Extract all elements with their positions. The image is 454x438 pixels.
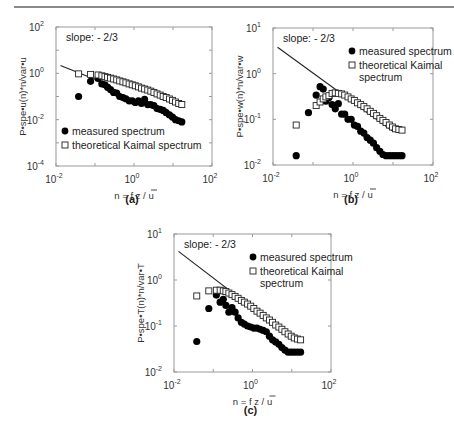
legend-marker-square — [250, 268, 256, 274]
y-tick-label: 101 — [246, 21, 261, 34]
data-point — [335, 100, 342, 107]
legend-label: theoretical Kaimal — [260, 265, 343, 277]
data-point — [313, 91, 320, 98]
y-tick-label: 10-1 — [145, 319, 162, 332]
data-point — [305, 109, 312, 116]
y-tick-label: 100 — [147, 273, 162, 286]
legend-label: theoretical Kaimal spectrum — [72, 139, 202, 151]
chart-b: 10-210010210-210-1100101n = f z / uP•spe… — [234, 21, 452, 205]
figure-caption: (c) — [244, 404, 258, 416]
legend: measured spectrumtheoretical Kaimalspect… — [250, 251, 353, 289]
legend-marker-circle — [349, 48, 356, 55]
figure-caption: (b) — [344, 193, 358, 205]
y-axis-label: P•spe•u(n)*n/var•u — [17, 57, 28, 136]
data-point — [293, 122, 299, 128]
y-tick-label: 102 — [29, 20, 44, 33]
data-point — [398, 152, 405, 159]
data-point — [87, 78, 94, 85]
y-tick-label: 10-2 — [145, 365, 162, 378]
data-point — [320, 85, 327, 92]
y-tick-label: 10-2 — [244, 158, 261, 171]
data-point — [298, 337, 304, 343]
legend-label: spectrum — [359, 71, 402, 83]
slope-annotation: slope: - 2/3 — [66, 31, 118, 43]
legend-label: measured spectrum — [72, 125, 165, 137]
legend-label: spectrum — [260, 277, 303, 289]
figure: 10-210010210-410-2100102n = f z / uP•spe… — [0, 0, 454, 438]
x-tick-label: 102 — [202, 172, 217, 185]
x-tick-label: 102 — [423, 171, 438, 184]
legend-marker-square — [62, 142, 68, 148]
legend-label: measured spectrum — [359, 45, 452, 57]
x-tick-label: 102 — [321, 378, 336, 391]
y-tick-label: 10-2 — [27, 113, 44, 126]
legend-marker-circle — [250, 254, 257, 261]
y-tick-label: 10-4 — [27, 159, 44, 172]
legend-label: measured spectrum — [260, 251, 353, 263]
data-point — [193, 338, 200, 345]
x-tick-label: 100 — [243, 378, 258, 391]
y-tick-label: 100 — [29, 66, 44, 79]
slope-annotation: slope: - 2/3 — [283, 32, 335, 44]
y-tick-label: 100 — [246, 67, 261, 80]
legend: measured spectrumtheoretical Kaimalspect… — [349, 45, 452, 83]
x-tick-label: 100 — [124, 172, 139, 185]
x-tick-label: 10-2 — [262, 171, 279, 184]
legend-marker-square — [349, 62, 355, 68]
y-tick-label: 10-1 — [244, 112, 261, 125]
data-point — [399, 127, 405, 133]
x-tick-label: 100 — [343, 171, 358, 184]
legend: measured spectrumtheoretical Kaimal spec… — [62, 125, 202, 151]
y-axis-label: P•spe•T(n)*n/var•T — [135, 263, 146, 343]
chart-a: 10-210010210-410-2100102n = f z / uP•spe… — [17, 20, 218, 205]
data-point — [179, 102, 185, 108]
data-point — [206, 288, 212, 294]
y-tick-label: 101 — [147, 227, 162, 240]
data-point — [76, 71, 82, 77]
data-point — [194, 293, 200, 299]
data-point — [293, 152, 300, 159]
legend-marker-circle — [62, 128, 69, 135]
data-point — [205, 305, 212, 312]
slope-annotation: slope: - 2/3 — [184, 238, 236, 250]
data-point — [88, 71, 94, 77]
data-point — [75, 93, 82, 100]
y-axis-label: P•spe•w(n)*n/var•w — [234, 55, 245, 137]
figure-caption: (a) — [125, 193, 139, 205]
chart-c: 10-210010210-210-1100101n = f z / uP•spe… — [135, 227, 353, 416]
legend-label: theoretical Kaimal — [359, 59, 442, 71]
x-tick-label: 10-2 — [45, 172, 62, 185]
x-tick-label: 10-2 — [163, 378, 180, 391]
data-point — [178, 118, 185, 125]
kaimal-series — [194, 287, 304, 343]
data-point — [297, 349, 304, 356]
